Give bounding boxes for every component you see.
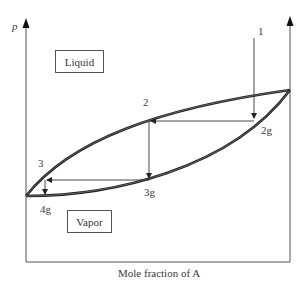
point-2g-label: 2g [261,124,272,136]
liquid-region-label: Liquid [55,50,104,73]
y-axis-left-arrow-icon [23,18,30,28]
x-axis-label: Mole fraction of A [118,267,200,279]
y-axis-right-arrow-icon [287,16,294,26]
vapor-region-text: Vapor [76,216,102,228]
point-3-label: 3 [38,157,44,169]
liquid-region-text: Liquid [65,56,94,68]
point-1-label: 1 [258,25,264,37]
point-3g-label: 3g [144,186,155,198]
point-2-label: 2 [143,96,149,108]
phase-diagram [0,0,306,286]
vapor-region-label: Vapor [67,210,112,233]
point-4g-label: 4g [40,203,51,215]
y-axis-label: p [12,20,18,32]
